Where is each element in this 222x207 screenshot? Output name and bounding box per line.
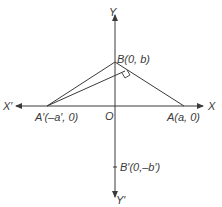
point-a-label: A(a, 0) bbox=[166, 111, 200, 123]
y-axis-label: Y bbox=[109, 6, 117, 18]
y-prime-axis-label: Y′ bbox=[116, 194, 126, 206]
point-a-prime-label: A′(–a′, 0) bbox=[34, 111, 79, 123]
x-axis-label: X bbox=[207, 100, 216, 112]
point-b-label: B(0, b) bbox=[117, 53, 150, 65]
origin-label: O bbox=[105, 110, 114, 122]
coordinate-diagram: Y Y′ X X′ O B(0, b) A(a, 0) A′(–a′, 0) B… bbox=[0, 0, 222, 207]
point-b-prime-label: B′(0,–b′) bbox=[120, 161, 161, 173]
x-prime-axis-label: X′ bbox=[2, 100, 13, 112]
perpendicular-from-a-prime bbox=[47, 71, 125, 106]
segment-a-prime-b bbox=[47, 62, 115, 106]
segment-b-a bbox=[115, 62, 184, 106]
